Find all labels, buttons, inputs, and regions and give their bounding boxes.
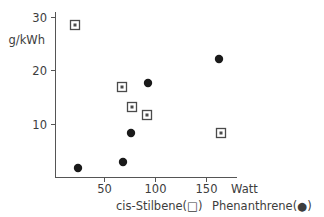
x-tick-label-100: 100: [145, 182, 167, 196]
axis-lines: [56, 12, 238, 178]
legend-item-cis-stilbene: cis-Stilbene(□): [116, 199, 202, 213]
x-tick-label-150: 150: [196, 182, 218, 196]
chart-canvas: 30 20 10 50 100 150 g/kWh Watt: [0, 0, 324, 217]
scatter-chart: 30 20 10 50 100 150 g/kWh Watt: [0, 0, 324, 217]
y-tick-label-20: 20: [32, 64, 47, 78]
legend-item-phenanthrene: Phenanthrene(●): [212, 199, 312, 213]
axes-group: [51, 12, 237, 182]
data-point-square: [143, 111, 152, 120]
data-point-square: [128, 103, 137, 112]
data-point-dot: [119, 158, 127, 166]
data-point-dot: [215, 55, 223, 63]
data-point-dot: [74, 164, 82, 172]
data-point-square: [71, 21, 80, 30]
y-axis-label: g/kWh: [9, 33, 46, 47]
legend: cis-Stilbene(□) Phenanthrene(●): [116, 199, 312, 213]
x-axis-label: Watt: [231, 182, 258, 196]
data-point-dot: [127, 129, 135, 137]
data-point-square: [118, 83, 127, 92]
y-tick-label-10: 10: [32, 118, 47, 132]
data-point-dot: [144, 79, 152, 87]
tick-labels-group: 30 20 10 50 100 150: [32, 11, 217, 197]
data-point-square: [217, 129, 226, 138]
y-tick-label-30: 30: [32, 11, 47, 25]
x-tick-label-50: 50: [97, 182, 112, 196]
